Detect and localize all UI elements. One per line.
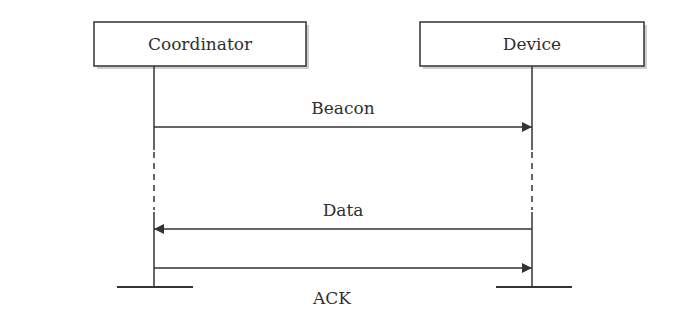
ack-label: ACK (312, 288, 351, 308)
device-label: Device (503, 34, 561, 54)
device-lifeline (496, 66, 572, 287)
sequence-diagram: Coordinator Device Beacon Data ACK (0, 0, 682, 335)
coordinator-label: Coordinator (148, 34, 253, 54)
beacon-label: Beacon (311, 98, 374, 118)
participant-coordinator: Coordinator (94, 22, 309, 69)
data-label: Data (323, 200, 364, 220)
message-data: Data (154, 200, 532, 229)
message-ack: ACK (154, 268, 532, 308)
coordinator-lifeline (117, 66, 193, 287)
participant-device: Device (420, 22, 647, 69)
message-beacon: Beacon (154, 98, 532, 127)
